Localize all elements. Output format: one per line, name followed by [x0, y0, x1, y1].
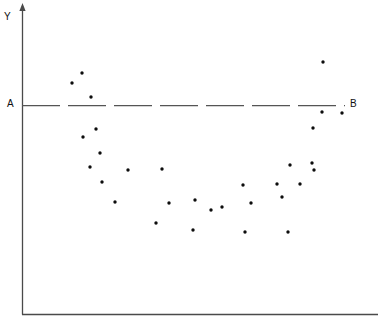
data-point [88, 165, 91, 168]
data-point [275, 182, 278, 185]
data-point [249, 201, 252, 204]
data-point [94, 127, 97, 130]
data-point [220, 205, 223, 208]
data-point [321, 60, 324, 63]
data-points-layer [70, 60, 343, 233]
data-point [310, 161, 313, 164]
data-point [167, 201, 170, 204]
data-point [160, 167, 163, 170]
data-point [98, 151, 101, 154]
reference-line-label-a: A [7, 99, 14, 109]
data-point [154, 221, 157, 224]
data-point [209, 208, 212, 211]
data-point [312, 168, 315, 171]
data-point [126, 168, 129, 171]
y-axis-label: Y [4, 12, 11, 22]
data-point [113, 200, 116, 203]
data-point [81, 135, 84, 138]
data-point [243, 230, 246, 233]
data-point [100, 180, 103, 183]
reference-line-label-b: B [350, 99, 357, 109]
data-point [70, 81, 73, 84]
data-point [80, 71, 83, 74]
data-point [340, 111, 343, 114]
data-point [286, 230, 289, 233]
axes-group [19, 3, 378, 315]
data-point [193, 198, 196, 201]
scatter-plot-figure [0, 0, 386, 327]
data-point [311, 126, 314, 129]
y-axis-arrowhead [19, 3, 25, 11]
data-point [89, 95, 92, 98]
data-point [280, 195, 283, 198]
data-point [298, 182, 301, 185]
data-point [191, 228, 194, 231]
data-point [241, 183, 244, 186]
data-point [320, 110, 323, 113]
data-point [288, 163, 291, 166]
